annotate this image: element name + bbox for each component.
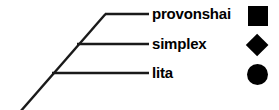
circle-icon: [247, 64, 268, 85]
main-stem-line: [20, 14, 106, 110]
cladogram-figure: provonshai simplex lita: [0, 0, 279, 110]
diamond-icon: [246, 34, 269, 57]
tree-lines: [0, 0, 279, 110]
taxon-label-lita: lita: [152, 65, 173, 80]
square-icon: [248, 6, 268, 26]
taxon-label-simplex: simplex: [152, 36, 206, 51]
taxon-label-provonshai: provonshai: [152, 6, 231, 21]
